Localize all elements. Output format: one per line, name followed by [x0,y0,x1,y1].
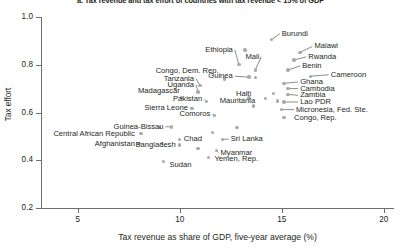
data-point [298,51,301,54]
data-point [196,90,199,93]
data-point [286,68,289,71]
data-point [247,75,250,78]
leader-lines [0,0,401,251]
point-label: Comoros [180,110,211,118]
point-label: Afghanistan [95,140,135,148]
leader-line [288,66,300,70]
data-point [286,93,289,96]
point-label: Sri Lanka [231,135,263,143]
leader-line [294,57,306,60]
point-label: Burundi [282,30,308,38]
data-point [215,149,218,152]
data-point [286,87,289,90]
point-label: Yemen, Rep. [214,155,258,163]
data-point [292,58,295,61]
point-label: Central African Republic [53,130,134,138]
data-point [139,132,142,135]
point-label: Mali [245,53,259,61]
data-point [282,82,285,85]
point-label: Ethiopia [205,46,232,54]
point-label: Congo, Rep. [294,114,337,122]
scatter-chart: a. Tax revenue and tax effort of countri… [0,0,401,251]
leader-line [284,82,298,84]
point-label: Chad [184,135,202,143]
data-point [170,125,173,128]
point-label: Rwanda [308,53,336,61]
data-point [207,156,210,159]
point-label: Bangladesh [136,141,176,149]
point-label: Mauritania [220,97,255,105]
data-point [254,68,257,71]
point-label: Sudan [170,161,192,169]
point-label: Malawi [314,42,338,50]
point-label: Benin [302,62,321,70]
data-point [282,100,285,103]
point-label: Cameroon [331,71,366,79]
